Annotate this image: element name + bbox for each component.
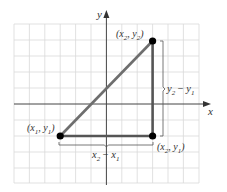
y-axis-label: y <box>96 8 102 20</box>
label-x1-y1: (x1, y1) <box>27 122 55 136</box>
label-x2-y1: (x2, y1) <box>157 141 185 155</box>
y-axis-arrow-icon <box>103 10 109 18</box>
point-x1-y1 <box>57 132 64 139</box>
point-x2-y2 <box>149 37 156 44</box>
vertical-bracket <box>160 41 165 136</box>
label-x2-y2: (x2, y2) <box>116 28 144 42</box>
x-axis-label: x <box>207 105 213 117</box>
label-x2-minus-x1: x2 − x1 <box>91 149 120 163</box>
label-y2-minus-y1: y2 − y1 <box>166 83 195 97</box>
point-x2-y1 <box>149 132 156 139</box>
distance-diagram: x y (x1, y1) (x2, y2) (x2, y1) x2 − x1 y… <box>0 0 227 192</box>
